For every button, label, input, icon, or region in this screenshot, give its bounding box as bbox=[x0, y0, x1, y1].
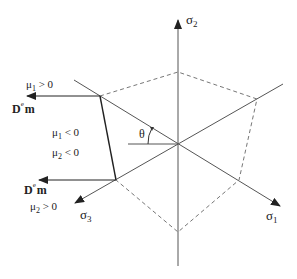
sigma2-label: σ2 bbox=[186, 12, 198, 29]
sigma1-label: σ1 bbox=[266, 208, 278, 225]
sigma3-axis bbox=[75, 84, 283, 203]
bottom-flow-vector-label: Dem bbox=[24, 181, 47, 197]
mu2-negative-label: μ2 < 0 bbox=[52, 146, 80, 161]
sigma1-axis bbox=[74, 80, 280, 206]
yield-surface-solid-edge bbox=[100, 96, 116, 180]
mu1-negative-label: μ1 < 0 bbox=[52, 126, 80, 141]
mu1-positive-label: μ1 > 0 bbox=[26, 78, 54, 93]
sigma3-label: σ3 bbox=[80, 207, 92, 224]
theta-arc bbox=[148, 128, 152, 144]
mu2-positive-label: μ2 > 0 bbox=[30, 200, 58, 215]
yield-surface-diagram: σ2 σ1 σ3 θ μ1 > 0 μ1 < 0 μ2 < 0 μ2 > 0 D… bbox=[0, 0, 297, 279]
top-flow-vector-label: Dem bbox=[12, 100, 35, 116]
theta-label: θ bbox=[139, 127, 145, 141]
